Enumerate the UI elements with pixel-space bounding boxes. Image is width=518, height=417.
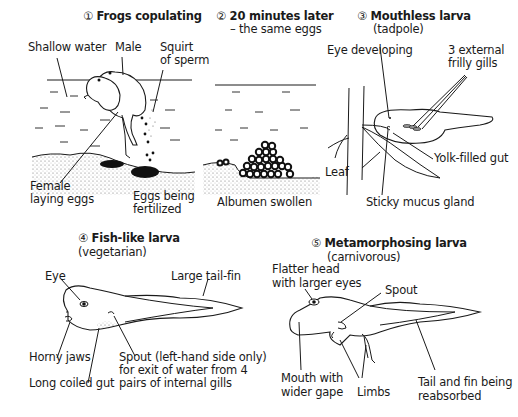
label-wider-gape: wider gape	[281, 386, 343, 399]
panel-5-heading: Metamorphosing larva	[325, 236, 467, 250]
panel-4-title: ④ Fish-like larva	[78, 232, 180, 245]
label-horny-jaws: Horny jaws	[29, 351, 91, 364]
label-leaf: Leaf	[325, 166, 349, 179]
panel-3-number: ③	[357, 9, 367, 23]
panel-1-drawing	[32, 57, 195, 195]
panel-5-drawing	[290, 289, 480, 378]
label-larger-eyes: with larger eyes	[272, 277, 361, 290]
panel-2-drawing	[203, 85, 320, 195]
panel-4-subtitle: (vegetarian)	[78, 246, 147, 259]
panel-2-number: ②	[216, 9, 226, 23]
panel-5-number: ⑤	[311, 236, 321, 250]
label-spout-line3: pairs of internal gills	[119, 377, 232, 390]
label-frilly-gills: frilly gills	[448, 57, 497, 70]
label-shallow-water: Shallow water	[28, 41, 106, 54]
label-long-coiled-gut: Long coiled gut	[29, 377, 114, 390]
label-albumen-swollen: Albumen swollen	[217, 196, 312, 209]
label-mouth-with: Mouth with	[281, 372, 343, 385]
panel-2-heading: 20 minutes later	[230, 9, 334, 23]
panel-1-title: ① Frogs copulating	[83, 10, 202, 23]
label-eye-developing: Eye developing	[327, 44, 413, 57]
panel-3-heading: Mouthless larva	[371, 9, 471, 23]
panel-1-heading: Frogs copulating	[97, 9, 202, 23]
label-flatter-head: Flatter head	[272, 263, 340, 276]
label-male: Male	[115, 41, 141, 54]
panel-4-heading: Fish-like larva	[92, 231, 180, 245]
panel-4-number: ④	[78, 231, 88, 245]
label-limbs: Limbs	[357, 386, 390, 399]
panel-1-number: ①	[83, 9, 93, 23]
label-large-tail-fin: Large tail-fin	[171, 270, 241, 283]
label-of-sperm: of sperm	[160, 54, 209, 67]
panel-5-title: ⑤ Metamorphosing larva	[311, 237, 467, 250]
panel-2-subtitle: – the same eggs	[230, 23, 322, 36]
panel-3-subtitle: (tadpole)	[373, 23, 424, 36]
label-yolk-filled-gut: Yolk-filled gut	[434, 152, 508, 165]
label-laying-eggs: laying eggs	[30, 193, 94, 206]
label-spout: Spout	[385, 284, 417, 297]
label-sticky-mucus-gland: Sticky mucus gland	[366, 196, 474, 209]
label-fertilized: fertilized	[133, 203, 181, 216]
label-tail-and-fin: Tail and fin being	[418, 376, 512, 389]
label-eye: Eye	[45, 270, 66, 283]
label-reabsorbed: reabsorbed	[418, 390, 481, 403]
